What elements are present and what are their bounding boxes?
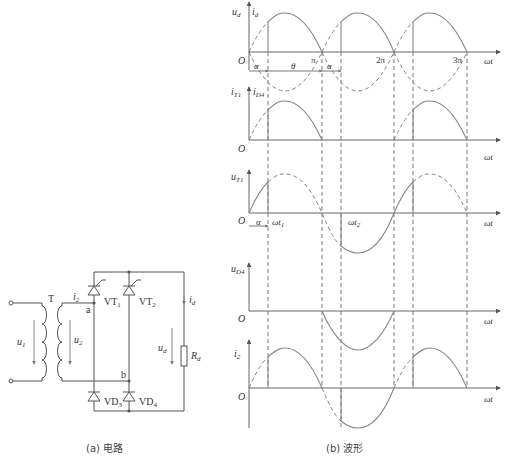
node-b-dot bbox=[127, 379, 130, 382]
theta-label: θ bbox=[291, 61, 296, 71]
vt1-label: VT1 bbox=[104, 296, 121, 309]
wt-axis-label-2: ωt bbox=[484, 152, 493, 162]
vd4-label: VD4 bbox=[139, 396, 157, 409]
alpha-label-2: α bbox=[327, 61, 332, 71]
input-terminal-bottom bbox=[9, 379, 13, 383]
3pi-label: 3π bbox=[453, 55, 463, 65]
wt-axis-label-4: ωt bbox=[484, 316, 493, 326]
origin-label-1: O bbox=[238, 55, 245, 66]
ut1-axis-label: uT1 bbox=[231, 171, 243, 184]
2pi-label: 2π bbox=[376, 55, 386, 65]
vd3-label: VD3 bbox=[104, 396, 122, 409]
input-terminal-top bbox=[9, 301, 13, 305]
i2-label: i2 bbox=[73, 291, 80, 304]
primary-winding bbox=[42, 306, 47, 378]
waveform-caption: (b) 波形 bbox=[326, 440, 363, 455]
figure-canvas: T u1 u2 i2 a b VT1 VT2 VD3 VD4 id ud Rd bbox=[0, 0, 505, 459]
wt-axis-label-3: ωt bbox=[484, 218, 493, 228]
origin-label-4: O bbox=[238, 313, 245, 324]
panel-ud4 bbox=[322, 311, 394, 350]
thyristor-vt1 bbox=[88, 280, 106, 295]
origin-label-5: O bbox=[238, 391, 245, 402]
it1-axis-label: iT1 bbox=[231, 86, 241, 99]
id4-axis-label: iD4 bbox=[253, 86, 265, 99]
transformer-label: T bbox=[48, 293, 54, 304]
ud-label: ud bbox=[158, 342, 167, 355]
diode-vd3 bbox=[88, 392, 100, 401]
rd-label: Rd bbox=[190, 350, 201, 363]
secondary-winding bbox=[58, 306, 63, 378]
alpha-label-1: α bbox=[254, 61, 259, 71]
origin-label-2: O bbox=[238, 143, 245, 154]
id-label: id bbox=[189, 294, 196, 307]
wt2-label: ωt2 bbox=[348, 217, 361, 229]
wt-axis-label-5: ωt bbox=[484, 394, 493, 404]
thyristor-vt2 bbox=[123, 280, 141, 295]
pi-label: π bbox=[311, 55, 316, 65]
ud-axis-label: ud bbox=[232, 6, 241, 19]
node-a-dot bbox=[92, 301, 95, 304]
i2-axis-label: i2 bbox=[234, 348, 241, 361]
wt1-label: ωt1 bbox=[272, 217, 284, 229]
node-a-label: a bbox=[86, 304, 91, 315]
origin-label-3: O bbox=[238, 215, 245, 226]
node-b-label: b bbox=[121, 369, 126, 380]
axes bbox=[249, 2, 500, 428]
diode-vd4 bbox=[123, 392, 135, 401]
alpha-label-3: α bbox=[256, 217, 261, 227]
load-resistor bbox=[181, 346, 187, 366]
ud4-axis-label: uD4 bbox=[231, 263, 245, 276]
id-axis-label: id bbox=[252, 6, 259, 19]
guide-lines bbox=[268, 52, 467, 428]
u2-label: u2 bbox=[74, 334, 83, 347]
circuit-caption: (a) 电路 bbox=[86, 440, 123, 455]
vt2-label: VT2 bbox=[139, 296, 156, 309]
u1-label: u1 bbox=[17, 336, 26, 349]
panel-it1-id4 bbox=[249, 101, 467, 140]
wt-axis-label-1: ωt bbox=[484, 56, 493, 66]
